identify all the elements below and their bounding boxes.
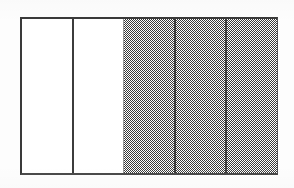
area-model-figure bbox=[20, 17, 278, 175]
area-model-column-3 bbox=[123, 19, 174, 173]
area-model-column-2 bbox=[72, 19, 124, 173]
area-model-column-1 bbox=[22, 19, 72, 173]
area-model-column-5 bbox=[225, 19, 277, 173]
area-model-column-4 bbox=[174, 19, 226, 173]
page-root bbox=[0, 0, 294, 188]
